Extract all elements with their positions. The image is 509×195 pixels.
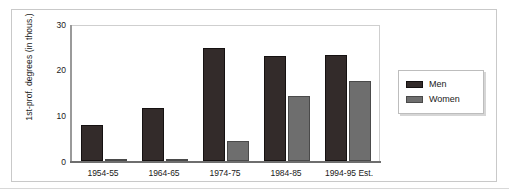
page-edge-divider: [0, 188, 509, 189]
x-tick-label-1984-85: 1984-85: [270, 168, 301, 178]
y-axis-line: [70, 25, 72, 163]
legend-label-men: Men: [429, 80, 447, 89]
x-tick-label-1964-65: 1964-65: [148, 168, 179, 178]
bar-women-1984-85[interactable]: [288, 96, 310, 161]
y-tick-label-10: 10: [44, 111, 66, 121]
legend-swatch-men-icon: [406, 81, 423, 88]
legend-swatch-women-icon: [406, 96, 423, 103]
y-axis-ticks: 0 10 20 30: [40, 0, 66, 195]
legend-item-men[interactable]: Men: [406, 77, 477, 92]
bar-men-1984-85[interactable]: [264, 56, 286, 161]
bar-men-1974-75[interactable]: [203, 48, 225, 161]
x-tick-label-1954-55: 1954-55: [87, 168, 118, 178]
plot-area: [70, 25, 380, 162]
y-tick-label-30: 30: [44, 20, 66, 30]
y-tick-label-20: 20: [44, 65, 66, 75]
legend: Men Women: [398, 70, 484, 114]
y-tick-label-0: 0: [44, 157, 66, 167]
bar-group-1984-85: [262, 24, 312, 161]
bar-men-1994-95-est[interactable]: [325, 55, 347, 161]
chart-figure: 1st-prof. degrees (in thous.) 0 10 20 30: [0, 0, 509, 195]
bar-group-1994-95-est: [323, 24, 373, 161]
y-axis-title: 1st-prof. degrees (in thous.): [24, 0, 34, 142]
x-axis-line: [70, 161, 381, 163]
x-tick-label-1994-95-est: 1994-95 Est.: [325, 168, 373, 178]
legend-label-women: Women: [429, 95, 460, 104]
legend-item-women[interactable]: Women: [406, 92, 477, 107]
bar-men-1964-65[interactable]: [142, 108, 164, 161]
x-tick-label-1974-75: 1974-75: [209, 168, 240, 178]
bar-women-1974-75[interactable]: [227, 141, 249, 161]
bar-group-1964-65: [140, 24, 190, 161]
bar-group-1954-55: [79, 24, 129, 161]
bar-women-1994-95-est[interactable]: [349, 81, 371, 161]
bar-men-1954-55[interactable]: [81, 125, 103, 161]
bar-group-1974-75: [201, 24, 251, 161]
